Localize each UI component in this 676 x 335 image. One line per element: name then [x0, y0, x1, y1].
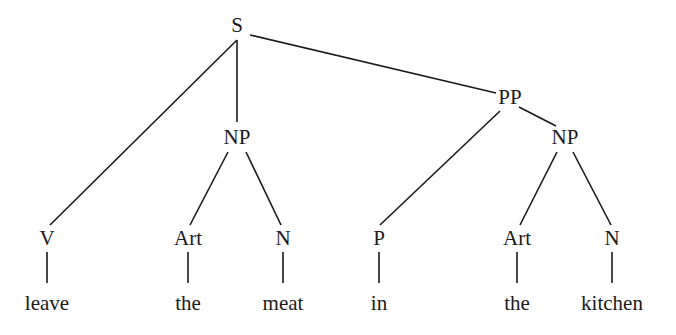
node-pp: PP: [498, 87, 521, 108]
tree-edge: [246, 152, 281, 225]
tree-edges: [0, 0, 676, 335]
node-s: S: [231, 15, 243, 36]
terminal-word: kitchen: [581, 293, 643, 314]
tree-edge: [190, 152, 228, 225]
node-np1: NP: [224, 127, 251, 148]
tree-edge: [380, 111, 500, 225]
terminal-word: in: [371, 293, 387, 314]
node-v: V: [39, 228, 54, 249]
node-art2: Art: [503, 228, 531, 249]
terminal-word: the: [504, 293, 530, 314]
terminal-word: leave: [25, 293, 69, 314]
node-n1: N: [275, 228, 290, 249]
tree-edge: [573, 152, 611, 225]
terminal-word: meat: [263, 293, 304, 314]
node-n2: N: [604, 228, 619, 249]
tree-edge: [50, 40, 237, 225]
node-art1: Art: [174, 228, 202, 249]
tree-edge: [519, 107, 556, 126]
node-np2: NP: [552, 127, 579, 148]
tree-edge: [250, 35, 496, 93]
node-p: P: [373, 228, 385, 249]
tree-edge: [520, 152, 557, 225]
terminal-word: the: [175, 293, 201, 314]
